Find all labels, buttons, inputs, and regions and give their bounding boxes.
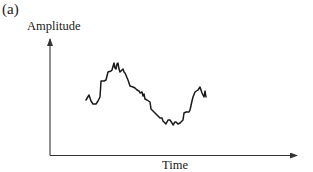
plot-area xyxy=(0,0,313,172)
signal-line xyxy=(86,63,206,125)
